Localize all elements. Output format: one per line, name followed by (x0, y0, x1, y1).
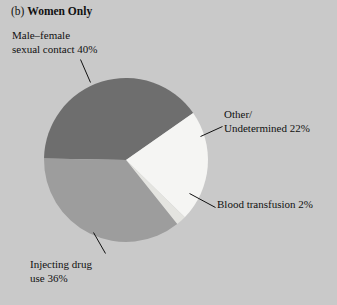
leader-line-male-female (81, 60, 91, 83)
slice-label-line-1: Male–female (12, 29, 98, 43)
leader-line-other-undetermined (201, 127, 223, 137)
slice-label-line-1: Injecting drug (30, 258, 92, 272)
pie-chart-figure: (b) Women Only Male–female sexual contac… (0, 0, 337, 305)
slice-label-other-undetermined: Other/ Undetermined 22% (224, 108, 310, 135)
slice-label-male-female-sexual-contact: Male–female sexual contact 40% (12, 29, 98, 56)
slice-label-injecting-drug-use: Injecting drug use 36% (30, 258, 92, 285)
slice-label-line-2: use 36% (30, 272, 92, 286)
slice-label-line-1: Other/ (224, 108, 310, 122)
slice-label-line-2: Undetermined 22% (224, 122, 310, 136)
slice-label-line-1: Blood transfusion 2% (217, 198, 313, 212)
slice-label-line-2: sexual contact 40% (12, 43, 98, 57)
slice-label-blood-transfusion: Blood transfusion 2% (217, 198, 313, 212)
